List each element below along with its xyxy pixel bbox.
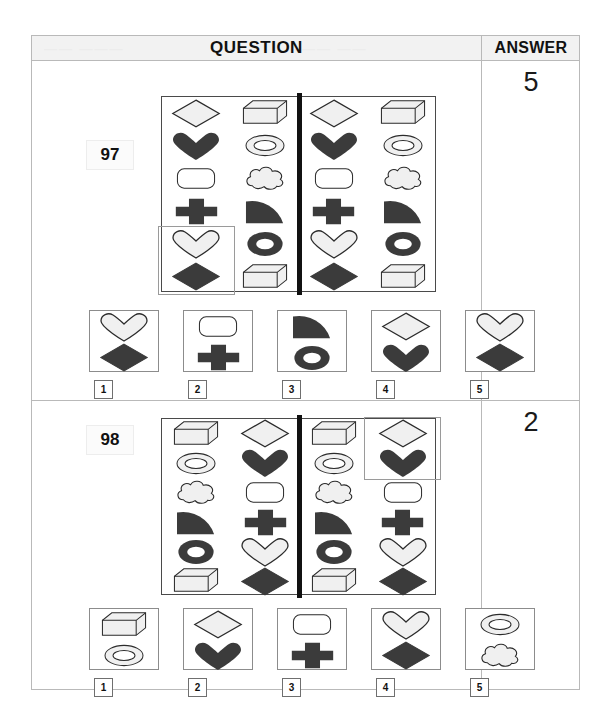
table-header: —— ——— ——— —— QUESTION ANSWER <box>32 36 579 61</box>
matrix-cell-diamond-outline <box>300 97 369 130</box>
option-shape-diamond-outline <box>184 609 252 640</box>
matrix-panel-q97 <box>161 96 436 292</box>
matrix-cell-box-3d <box>162 419 231 449</box>
option-tile-4[interactable] <box>371 310 441 372</box>
matrix-cell-box-3d <box>300 567 369 597</box>
matrix-cell-diamond-filled <box>231 567 300 597</box>
matrix-cell-diamond-filled <box>368 567 437 597</box>
matrix-cell-box-3d <box>368 97 437 130</box>
matrix-cell-rounded-rect-outline <box>162 162 231 195</box>
question-number-98: 98 <box>86 425 134 455</box>
matrix-cell-ring-thick-filled <box>162 537 231 567</box>
matrix-cell-cross-filled <box>300 195 369 228</box>
matrix-cell-cloud-outline <box>231 162 300 195</box>
option-shape-heart-filled <box>372 342 440 373</box>
option-number-2[interactable]: 2 <box>188 380 207 399</box>
option-shape-heart-filled <box>184 640 252 671</box>
option-number-3[interactable]: 3 <box>282 380 301 399</box>
matrix-cell-diamond-outline <box>162 97 231 130</box>
option-number-label: 2 <box>195 682 201 693</box>
option-number-4[interactable]: 4 <box>376 678 395 697</box>
answer-cell-97: 5 <box>482 61 580 401</box>
matrix-cell-diamond-outline <box>231 419 300 449</box>
matrix-cell-quarter-pie-filled <box>162 508 231 538</box>
answer-cell-98: 2 <box>482 401 580 690</box>
panel-divider <box>297 415 302 598</box>
matrix-cell-ring-thick-filled <box>231 228 300 261</box>
question-answer-table: —— ——— ——— —— QUESTION ANSWER 9712345 98… <box>31 35 580 690</box>
option-tile-1[interactable] <box>89 310 159 372</box>
option-number-label: 2 <box>195 384 201 395</box>
option-shape-box-3d <box>90 609 158 640</box>
panel-divider <box>297 93 302 295</box>
option-shape-rounded-rect-outline <box>184 311 252 342</box>
worksheet-page: —— ——— ——— —— QUESTION ANSWER 9712345 98… <box>0 0 610 719</box>
matrix-cell-cross-filled <box>231 508 300 538</box>
highlight-box <box>158 226 235 295</box>
matrix-cell-ring-thick-filled <box>300 537 369 567</box>
matrix-cell-box-3d <box>231 97 300 130</box>
question-number-label: 97 <box>101 145 120 165</box>
matrix-cell-rounded-rect-outline <box>368 478 437 508</box>
matrix-cell-cloud-outline <box>162 478 231 508</box>
question-number-label: 98 <box>101 430 120 450</box>
answer-value: 5 <box>482 61 580 96</box>
option-tile-2[interactable] <box>183 608 253 670</box>
header-answer: ANSWER <box>482 36 580 60</box>
option-shape-diamond-filled <box>372 640 440 671</box>
matrix-cell-heart-filled <box>231 449 300 479</box>
question-number-97: 97 <box>86 140 134 170</box>
option-number-label: 1 <box>101 384 107 395</box>
matrix-cell-ellipse-ring-outline <box>368 130 437 163</box>
option-shape-diamond-outline <box>372 311 440 342</box>
matrix-cell-ring-thick-filled <box>368 228 437 261</box>
option-shape-heart-outline <box>372 609 440 640</box>
matrix-cell-box-3d <box>162 567 231 597</box>
option-number-label: 4 <box>383 682 389 693</box>
matrix-cell-cross-filled <box>368 508 437 538</box>
option-shape-quarter-pie-filled <box>278 311 346 342</box>
matrix-cell-heart-outline <box>300 228 369 261</box>
matrix-cell-heart-filled <box>300 130 369 163</box>
option-number-2[interactable]: 2 <box>188 678 207 697</box>
matrix-cell-ellipse-ring-outline <box>231 130 300 163</box>
matrix-cell-rounded-rect-outline <box>231 478 300 508</box>
question-row-97: 9712345 <box>32 61 481 401</box>
option-number-label: 3 <box>289 384 295 395</box>
matrix-cell-ellipse-ring-outline <box>300 449 369 479</box>
option-shape-cross-filled <box>184 342 252 373</box>
option-number-label: 3 <box>289 682 295 693</box>
matrix-cell-quarter-pie-filled <box>300 508 369 538</box>
option-number-3[interactable]: 3 <box>282 678 301 697</box>
option-number-1[interactable]: 1 <box>94 678 113 697</box>
matrix-cell-cross-filled <box>162 195 231 228</box>
option-number-1[interactable]: 1 <box>94 380 113 399</box>
option-shape-ring-thick-filled <box>278 342 346 373</box>
option-tile-3[interactable] <box>277 608 347 670</box>
matrix-cell-cloud-outline <box>368 162 437 195</box>
option-shape-diamond-filled <box>90 342 158 373</box>
option-number-4[interactable]: 4 <box>376 380 395 399</box>
matrix-cell-ellipse-ring-outline <box>162 449 231 479</box>
option-tile-1[interactable] <box>89 608 159 670</box>
option-shape-ellipse-ring-outline <box>90 640 158 671</box>
option-number-label: 1 <box>101 682 107 693</box>
matrix-cell-box-3d <box>368 260 437 293</box>
option-shape-heart-outline <box>90 311 158 342</box>
option-tile-4[interactable] <box>371 608 441 670</box>
matrix-cell-box-3d <box>231 260 300 293</box>
option-number-label: 4 <box>383 384 389 395</box>
matrix-cell-heart-filled <box>162 130 231 163</box>
option-tile-3[interactable] <box>277 310 347 372</box>
option-shape-rounded-rect-outline <box>278 609 346 640</box>
matrix-cell-diamond-filled <box>300 260 369 293</box>
matrix-cell-quarter-pie-filled <box>231 195 300 228</box>
matrix-cell-cloud-outline <box>300 478 369 508</box>
answer-value: 2 <box>482 401 580 436</box>
option-tile-2[interactable] <box>183 310 253 372</box>
matrix-cell-rounded-rect-outline <box>300 162 369 195</box>
question-row-98: 9812345 <box>32 401 481 690</box>
option-shape-cross-filled <box>278 640 346 671</box>
matrix-cell-box-3d <box>300 419 369 449</box>
matrix-cell-heart-outline <box>231 537 300 567</box>
